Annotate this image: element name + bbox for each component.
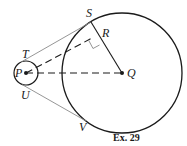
dashed-segment-pr: [26, 37, 94, 73]
tangent-line-uv: [22, 85, 86, 122]
label-p: P: [15, 67, 22, 79]
point-q: [120, 71, 124, 75]
label-t: T: [22, 48, 29, 60]
figure-caption: Ex. 29: [113, 133, 140, 143]
label-u: U: [21, 89, 30, 101]
right-angle-marker: [89, 40, 100, 49]
tangent-line-ts: [22, 22, 91, 62]
label-r: R: [102, 27, 109, 39]
label-v: V: [79, 121, 86, 133]
label-q: Q: [127, 67, 136, 79]
tangent-circles-diagram: S R T P Q U V Ex. 29: [0, 0, 187, 146]
label-s: S: [86, 7, 92, 19]
point-p: [24, 71, 28, 75]
diagram-canvas: [0, 0, 187, 146]
